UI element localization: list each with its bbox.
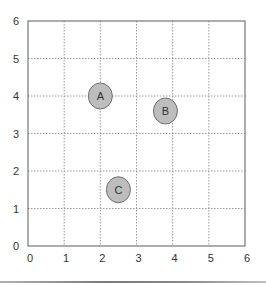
y-tick-label: 6 — [13, 15, 19, 27]
x-tick-label: 3 — [135, 252, 141, 264]
x-axis-tick-labels: 0123456 — [27, 252, 250, 264]
scatter-chart: 0123456 0123456 ABC — [0, 0, 266, 285]
y-tick-label: 2 — [13, 165, 19, 177]
data-point-a: A — [88, 83, 112, 109]
grid-lines — [28, 21, 245, 246]
x-tick-label: 4 — [172, 252, 178, 264]
data-points: ABC — [88, 83, 177, 203]
point-label: B — [162, 105, 169, 117]
data-point-c: C — [106, 177, 130, 203]
x-tick-label: 5 — [208, 252, 214, 264]
data-point-b: B — [153, 98, 177, 124]
point-label: A — [97, 90, 105, 102]
x-tick-label: 0 — [27, 252, 33, 264]
y-tick-label: 5 — [13, 53, 19, 65]
point-label: C — [114, 184, 122, 196]
x-tick-label: 2 — [99, 252, 105, 264]
y-tick-label: 1 — [13, 203, 19, 215]
bottom-divider — [0, 281, 266, 283]
y-tick-label: 3 — [13, 128, 19, 140]
x-tick-label: 1 — [63, 252, 69, 264]
y-tick-label: 4 — [13, 90, 19, 102]
y-tick-label: 0 — [13, 240, 19, 252]
y-axis-tick-labels: 0123456 — [13, 15, 19, 252]
x-tick-label: 6 — [244, 252, 250, 264]
